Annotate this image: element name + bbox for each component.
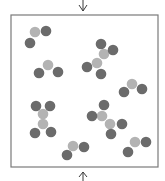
dark-atom (96, 39, 107, 50)
dark-atom (31, 101, 42, 112)
dark-atom (99, 100, 110, 111)
dark-atom (96, 69, 107, 80)
dark-atom (106, 129, 117, 140)
dark-atom (46, 127, 57, 138)
bottom-arrow (79, 172, 87, 181)
dark-atom (82, 62, 93, 73)
light-atom (130, 137, 141, 148)
dark-atom (119, 87, 130, 98)
dark-atom (45, 101, 56, 112)
light-atom (92, 58, 103, 69)
diagram-canvas (0, 0, 165, 181)
dark-atom (123, 147, 134, 158)
light-atom (68, 141, 79, 152)
dark-atom (117, 119, 128, 130)
dark-atom (53, 67, 64, 78)
light-atom (43, 60, 54, 71)
dark-atom (108, 45, 119, 56)
light-atom (38, 119, 49, 130)
dark-atom (141, 137, 152, 148)
light-atom (97, 111, 108, 122)
top-arrow (79, 0, 87, 11)
light-atom (127, 79, 138, 90)
dark-atom (34, 68, 45, 79)
dark-atom (30, 128, 41, 139)
dark-atom (79, 142, 90, 153)
light-atom (105, 119, 116, 130)
dark-atom (137, 84, 148, 95)
light-atom (38, 109, 49, 120)
dark-atom (87, 111, 98, 122)
dark-atom (62, 150, 73, 161)
dark-atom (25, 38, 36, 49)
dark-atom (41, 26, 52, 37)
light-atom (30, 27, 41, 38)
